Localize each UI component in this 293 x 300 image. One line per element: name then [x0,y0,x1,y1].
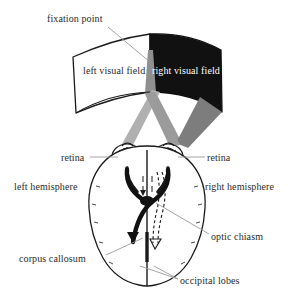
label-optic-chiasm: optic chiasm [211,232,263,242]
label-fixation-point: fixation point [47,14,103,24]
label-right-hemisphere: right hemisphere [205,182,274,192]
label-right-visual-field: right visual field [152,66,220,76]
label-retina-left: retina [61,153,84,163]
label-retina-right: retina [207,153,230,163]
optic-chiasm-node [140,196,154,206]
label-corpus-callosum: corpus callosum [19,254,86,264]
visual-pathway-figure: fixation point left visual field right v… [0,0,293,300]
label-left-hemisphere: left hemisphere [14,182,77,192]
label-occipital-lobes: occipital lobes [180,276,240,286]
cone-crossing-left-to-right-eye [144,92,180,147]
label-left-visual-field: left visual field [83,66,145,76]
